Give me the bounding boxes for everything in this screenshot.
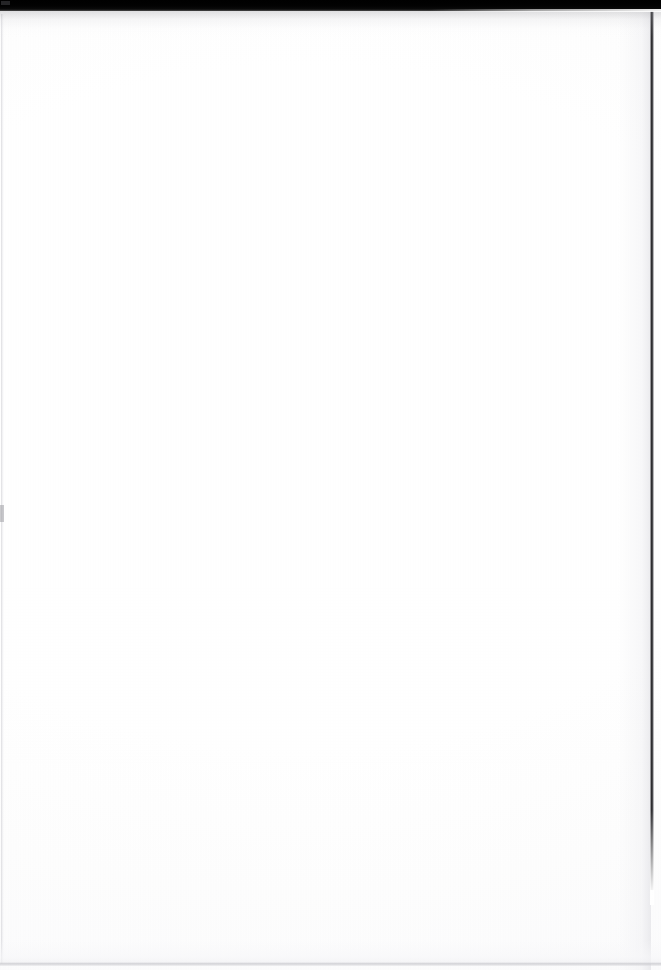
right-scan-edge: [650, 0, 654, 890]
right-scan-edge-fade: [650, 810, 654, 905]
bottom-scan-edge: [0, 962, 661, 966]
scanned-page: [0, 0, 661, 970]
left-margin-tick: [0, 505, 4, 522]
scan-corner-artifact: [1, 1, 10, 5]
left-scan-edge: [1, 14, 4, 964]
page-content-area: [58, 64, 603, 902]
top-scan-bar-taper: [430, 9, 661, 12]
